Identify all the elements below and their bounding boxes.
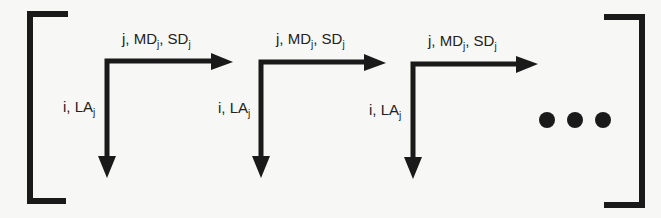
axis-block-3: j, MDj, SDj i, LAj bbox=[369, 32, 538, 179]
arrow-down-icon bbox=[252, 156, 270, 178]
arrow-right-icon bbox=[211, 53, 233, 70]
axis-block-1: j, MDj, SDj i, LAj bbox=[63, 30, 233, 178]
axis-arrows bbox=[261, 62, 368, 160]
row-label: i, LAj bbox=[218, 99, 250, 119]
arrow-down-icon bbox=[98, 156, 116, 178]
axis-block-2: j, MDj, SDj i, LAj bbox=[218, 30, 386, 178]
column-label: j, MDj, SDj bbox=[121, 30, 191, 50]
right-bracket bbox=[604, 17, 642, 205]
column-label: j, MDj, SDj bbox=[427, 32, 497, 52]
arrow-right-icon bbox=[364, 54, 386, 71]
row-label: i, LAj bbox=[63, 98, 95, 118]
ellipsis-icon bbox=[539, 112, 611, 128]
column-label: j, MDj, SDj bbox=[275, 30, 345, 50]
axis-arrows bbox=[413, 64, 520, 161]
diagram-canvas: j, MDj, SDj i, LAj j, MDj, SDj i, LAj j,… bbox=[0, 0, 661, 218]
arrow-down-icon bbox=[404, 157, 422, 179]
arrow-right-icon bbox=[516, 56, 538, 73]
row-label: i, LAj bbox=[369, 101, 401, 121]
axis-arrows bbox=[107, 61, 215, 160]
